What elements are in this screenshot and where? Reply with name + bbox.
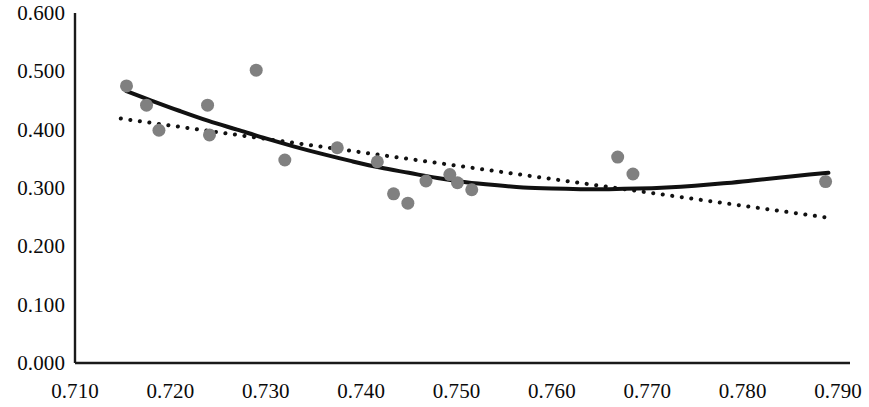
y-axis-tick-label: 0.100 <box>17 294 65 315</box>
y-axis-tick-label: 0.200 <box>17 236 65 257</box>
data-point-marker <box>819 175 832 188</box>
data-point-marker <box>419 175 432 188</box>
scatter-chart: 0.0000.1000.2000.3000.4000.5000.600 0.71… <box>0 0 869 407</box>
data-point-marker <box>331 141 344 154</box>
data-point-marker <box>278 154 291 167</box>
polynomial-trendline <box>127 91 829 189</box>
polynomial-trendline-path <box>127 91 829 189</box>
x-axis-tick-label: 0.710 <box>51 381 99 402</box>
data-point-marker <box>465 183 478 196</box>
data-point-marker <box>371 155 384 168</box>
y-axis-tick-label: 0.600 <box>17 3 65 24</box>
x-axis-tick-label: 0.740 <box>337 381 385 402</box>
data-point-marker <box>152 124 165 137</box>
x-axis-tick-label: 0.770 <box>623 381 671 402</box>
y-axis-tick-label: 0.500 <box>17 61 65 82</box>
axis-lines <box>75 13 850 363</box>
data-point-marker <box>140 99 153 112</box>
x-axis-tick-label: 0.750 <box>433 381 481 402</box>
data-point-marker <box>626 168 639 181</box>
x-axis-tick-label: 0.720 <box>147 381 195 402</box>
y-axis-tick-label: 0.000 <box>17 353 65 374</box>
y-axis-tick-label: 0.400 <box>17 119 65 140</box>
x-axis-tick-label: 0.760 <box>528 381 576 402</box>
data-point-marker <box>451 176 464 189</box>
y-axis-tick-label: 0.300 <box>17 178 65 199</box>
x-axis-tick-label: 0.730 <box>242 381 290 402</box>
plot-area <box>0 0 869 407</box>
data-point-marker <box>611 151 624 164</box>
x-axis-tick-label: 0.780 <box>719 381 767 402</box>
data-point-markers <box>120 64 832 210</box>
linear-trendline <box>121 119 829 218</box>
data-point-marker <box>203 128 216 141</box>
x-axis-tick-label: 0.790 <box>814 381 862 402</box>
data-point-marker <box>250 64 263 77</box>
data-point-marker <box>387 187 400 200</box>
linear-trendline-path <box>121 119 829 218</box>
data-point-marker <box>201 99 214 112</box>
data-point-marker <box>120 79 133 92</box>
data-point-marker <box>401 197 414 210</box>
